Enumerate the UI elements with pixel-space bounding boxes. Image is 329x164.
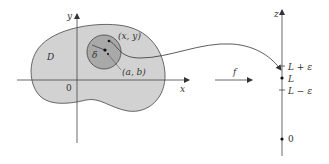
point-ab <box>103 48 106 51</box>
point-ab-small <box>107 53 109 55</box>
point-xy-label: (x, y) <box>118 31 141 41</box>
z-axis-label: z <box>273 9 279 19</box>
y-axis-label: y <box>66 11 73 21</box>
function-label: f <box>232 67 238 77</box>
point-zero <box>280 137 283 140</box>
limit-diagram: y x 0 D δ (x, y) (a, b) f z L + ε L L − … <box>0 0 329 164</box>
origin-label: 0 <box>66 83 72 93</box>
point-ab-label: (a, b) <box>122 67 146 77</box>
delta-label: δ <box>92 50 97 60</box>
point-l <box>280 76 283 79</box>
z-lower-label: L − ε <box>287 86 312 96</box>
z-origin-label: 0 <box>288 134 294 144</box>
region-label: D <box>46 52 54 62</box>
x-axis-label: x <box>180 84 185 94</box>
z-upper-label: L + ε <box>287 62 312 72</box>
z-limit-label: L <box>287 74 294 84</box>
